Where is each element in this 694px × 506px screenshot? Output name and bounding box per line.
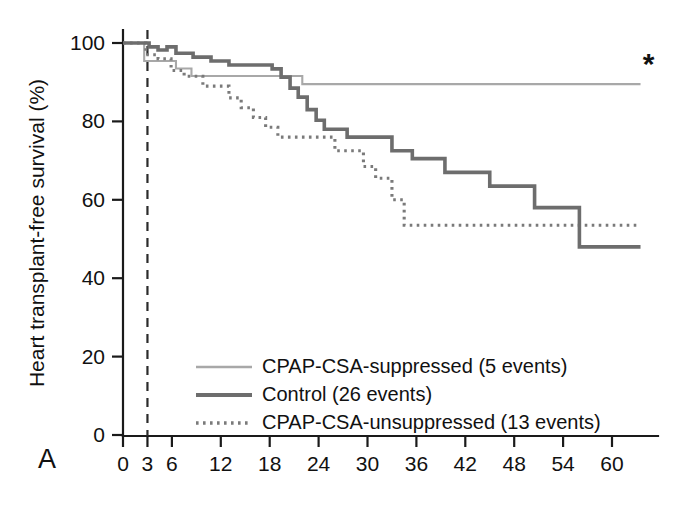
legend-item-label: Control (26 events) — [262, 383, 432, 405]
curve-cpap-csa-suppressed — [123, 43, 641, 84]
asterisk-annotation: * — [643, 47, 655, 80]
x-tick-label: 36 — [405, 452, 428, 475]
x-axis-ticks: 036121824303642485460 — [117, 436, 624, 475]
x-tick-label: 60 — [600, 452, 623, 475]
x-tick-label: 0 — [117, 452, 129, 475]
x-tick-label: 18 — [258, 452, 281, 475]
x-tick-label: 54 — [551, 452, 575, 475]
chart-legend: CPAP-CSA-suppressed (5 events)Control (2… — [196, 355, 601, 433]
x-tick-label: 30 — [356, 452, 379, 475]
x-tick-label: 3 — [142, 452, 154, 475]
y-tick-label: 40 — [82, 266, 105, 289]
legend-item-label: CPAP-CSA-suppressed (5 events) — [262, 355, 567, 377]
y-tick-label: 80 — [82, 109, 105, 132]
curve-control — [123, 43, 641, 247]
x-tick-label: 12 — [209, 452, 232, 475]
x-tick-label: 24 — [307, 452, 331, 475]
survival-chart-figure: 020406080100 036121824303642485460 * Hea… — [0, 0, 694, 506]
y-tick-label: 100 — [70, 31, 105, 54]
curve-cpap-csa-unsuppressed — [123, 43, 641, 225]
legend-item-label: CPAP-CSA-unsuppressed (13 events) — [262, 411, 601, 433]
x-tick-label: 6 — [166, 452, 178, 475]
y-tick-label: 0 — [93, 423, 105, 446]
x-tick-label: 48 — [503, 452, 526, 475]
panel-label: A — [38, 444, 56, 474]
y-axis-title: Heart transplant-free survival (%) — [25, 79, 48, 387]
chart-plot-area: 020406080100 036121824303642485460 * Hea… — [0, 0, 694, 506]
x-tick-label: 42 — [454, 452, 477, 475]
y-tick-label: 20 — [82, 345, 105, 368]
y-axis-ticks: 020406080100 — [70, 31, 123, 446]
y-tick-label: 60 — [82, 188, 105, 211]
